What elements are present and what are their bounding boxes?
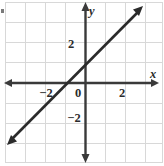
coordinate-graph: y x 2 −2 −2 2 0: [0, 0, 164, 166]
y-tick-label-positive-2: 2: [68, 37, 74, 51]
figure-root: y x 2 −2 −2 2 0: [0, 0, 164, 166]
y-axis-label: y: [87, 4, 95, 18]
y-tick-label-negative-2: −2: [67, 111, 80, 125]
x-tick-label-negative-2: −2: [39, 86, 52, 100]
x-axis-label: x: [149, 67, 156, 81]
x-tick-label-positive-2: 2: [119, 86, 125, 100]
x-axis: [4, 79, 159, 87]
origin-label: 0: [75, 86, 81, 100]
y-axis-arrow-down: [82, 154, 90, 163]
